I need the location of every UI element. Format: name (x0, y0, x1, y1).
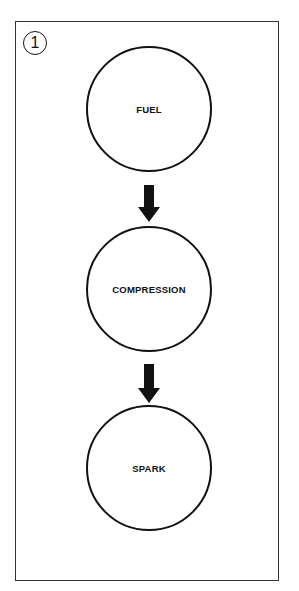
step-number-badge: 1 (23, 31, 47, 55)
node-compression: COMPRESSION (86, 226, 212, 352)
node-spark: SPARK (86, 405, 212, 531)
step-number: 1 (31, 34, 40, 52)
node-fuel: FUEL (86, 46, 212, 172)
arrow-down-icon (137, 185, 161, 223)
node-label: SPARK (132, 463, 166, 474)
arrow-down-icon (137, 364, 161, 404)
node-label: FUEL (136, 104, 162, 115)
node-label: COMPRESSION (112, 284, 185, 295)
